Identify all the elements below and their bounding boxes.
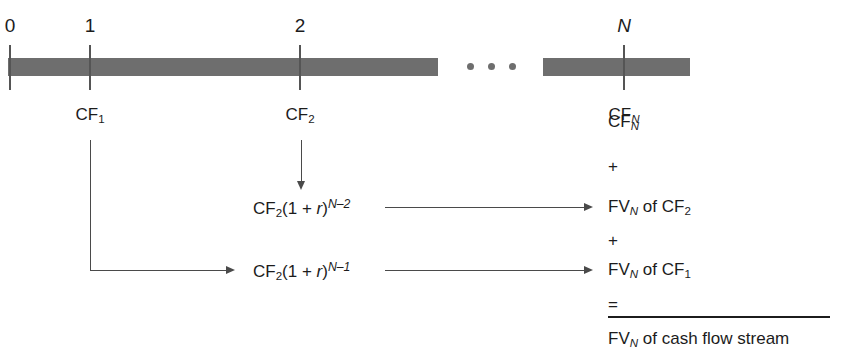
timeline-bar-right [543,58,690,76]
period-number-0: 0 [0,16,30,35]
period-number-N: N [604,16,644,35]
ellipsis-dot-2 [488,63,495,70]
summation-total: FVN of cash flow stream [608,330,789,350]
summation-rule-line [608,316,830,318]
row1-formula-base: CF [253,199,276,218]
cf2-arrow-head [297,181,305,190]
sum-term2-of-subscript: 2 [684,205,690,217]
period-number-2: 2 [280,16,320,35]
row1-formula-exponent: N–2 [328,197,350,211]
sum-term3-base: FV [608,260,630,279]
sum-term3-subscript: N [630,268,638,280]
cf1-arrow-horizontal-shaft [90,270,227,271]
summation-plus-2: + [608,232,618,249]
cash-flow-label-1: CF1 [55,106,125,126]
cf2-arrow-shaft [301,140,302,182]
cf-1-subscript: 1 [98,113,104,125]
sum-term1-subscript: N [631,120,639,132]
cf1-arrow-vertical-shaft [90,140,91,271]
row1-arrow-head [584,203,593,211]
ellipsis-dot-1 [467,63,474,70]
tick-mark-0 [9,45,11,90]
row2-arrow-head [584,266,593,274]
sum-total-base: FV [608,329,630,348]
summation-plus-1: + [608,158,618,175]
summation-term-cf-N: CFN [608,113,639,133]
compounding-formula-row-2: CF2(1 + r)N–1 [253,261,350,282]
sum-term3-of: of CF [638,260,684,279]
ellipsis-dot-3 [509,63,516,70]
row2-arrow-shaft [385,270,585,271]
cash-flow-label-2: CF2 [265,106,335,126]
sum-term2-of: of CF [638,197,684,216]
row2-formula-exponent: N–1 [328,260,350,274]
row1-arrow-shaft [385,207,585,208]
tick-mark-N [623,45,625,90]
future-value-timeline-diagram: 0 1 2 N CF1 CF2 CFN CF2(1 + r)N–2 CF2(1 … [0,0,844,356]
compounding-formula-row-1: CF2(1 + r)N–2 [253,198,350,219]
tick-mark-1 [89,45,91,90]
sum-term1-base: CF [608,112,631,131]
cf-1-base: CF [75,105,98,124]
sum-term3-of-subscript: 1 [684,268,690,280]
row1-formula-factor: (1 + [282,199,317,218]
cf1-arrow-head [226,266,235,274]
period-number-1: 1 [70,16,110,35]
row2-formula-base: CF [253,262,276,281]
tick-mark-2 [299,45,301,90]
sum-term2-subscript: N [630,205,638,217]
summation-equals-sign: = [608,296,618,313]
summation-term-fv-cf1: FVN of CF1 [608,261,691,281]
cf-2-base: CF [285,105,308,124]
cf-2-subscript: 2 [308,113,314,125]
timeline-bar-left [8,58,438,76]
sum-term2-base: FV [608,197,630,216]
sum-total-of: of cash flow stream [638,329,789,348]
sum-total-subscript: N [630,337,638,349]
row2-formula-factor: (1 + [282,262,317,281]
summation-term-fv-cf2: FVN of CF2 [608,198,691,218]
